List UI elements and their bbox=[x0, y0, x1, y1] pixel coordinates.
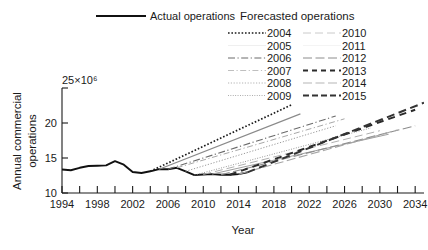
y-axis-title-line1: Annual commercial bbox=[11, 92, 23, 190]
x-tick-label: 2030 bbox=[368, 198, 392, 210]
legend-label-2015: 2015 bbox=[342, 90, 366, 102]
legend-label-2011: 2011 bbox=[342, 40, 366, 52]
x-tick-label: 2006 bbox=[156, 198, 180, 210]
series-line-actual-operations bbox=[62, 161, 247, 175]
x-tick-label: 1994 bbox=[50, 198, 74, 210]
x-tick-label: 2002 bbox=[120, 198, 144, 210]
legend-label-actual: Actual operations bbox=[150, 10, 235, 22]
legend-col-left: 2004 2005 2006 2007 2008 2009 bbox=[228, 27, 291, 102]
legend-label-2010: 2010 bbox=[342, 27, 366, 39]
x-tick-label: 1998 bbox=[85, 198, 109, 210]
legend-label-2014: 2014 bbox=[342, 77, 366, 89]
x-tick-label: 2022 bbox=[297, 198, 321, 210]
y-tick-marks bbox=[62, 88, 68, 193]
y-exponent-text: 25×10⁶ bbox=[62, 74, 97, 86]
series-line-2005 bbox=[159, 114, 300, 169]
data-series-layer bbox=[62, 103, 424, 175]
legend-label-2006: 2006 bbox=[267, 52, 291, 64]
legend-label-2012: 2012 bbox=[342, 52, 366, 64]
legend-label-2009: 2009 bbox=[267, 90, 291, 102]
x-tick-label: 2018 bbox=[262, 198, 286, 210]
x-tick-label: 2014 bbox=[226, 198, 250, 210]
legend-label-2004: 2004 bbox=[267, 27, 291, 39]
y-axis-exponent-label: 25×10⁶ bbox=[62, 74, 97, 86]
annual-commercial-operations-chart: Actual operations Forecasted operations … bbox=[0, 0, 428, 250]
legend-label-2005: 2005 bbox=[267, 40, 291, 52]
legend-col-right: 2010 2011 2012 2013 2014 2015 bbox=[303, 27, 366, 102]
x-tick-label: 2010 bbox=[191, 198, 215, 210]
y-axis-title-line2: operations bbox=[26, 114, 38, 168]
x-axis-title: Year bbox=[231, 224, 254, 236]
x-tick-labels: 1994199820022006201020142018202220262030… bbox=[50, 198, 428, 210]
chart-figure: Actual operations Forecasted operations … bbox=[0, 0, 428, 250]
legend: Actual operations Forecasted operations … bbox=[96, 10, 366, 102]
x-tick-label: 2034 bbox=[403, 198, 427, 210]
legend-label-2013: 2013 bbox=[342, 65, 366, 77]
legend-label-2007: 2007 bbox=[267, 65, 291, 77]
y-tick-label: 15 bbox=[45, 152, 57, 164]
legend-label-2008: 2008 bbox=[267, 77, 291, 89]
x-tick-label: 2026 bbox=[332, 198, 356, 210]
x-tick-marks bbox=[62, 186, 415, 193]
y-tick-label: 20 bbox=[45, 117, 57, 129]
legend-header-forecast: Forecasted operations bbox=[240, 10, 355, 22]
y-tick-labels: 101520 bbox=[45, 117, 57, 199]
